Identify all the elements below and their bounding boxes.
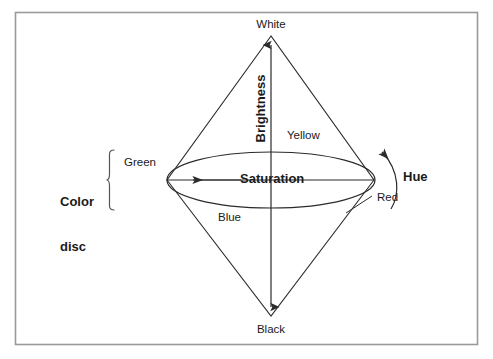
label-saturation: Saturation [240,172,304,187]
label-white: White [256,18,285,31]
label-blue: Blue [218,211,241,224]
label-green: Green [124,156,156,169]
label-yellow: Yellow [287,129,320,142]
label-black: Black [257,323,285,336]
label-color-disc-line2: disc [60,240,94,255]
label-brightness: Brightness [254,60,269,156]
label-color-disc-line1: Color [60,195,94,210]
label-red: Red [377,191,398,204]
figure-root: White Black Brightness Saturation Hue Gr… [0,0,493,359]
label-hue: Hue [403,170,428,185]
label-color-disc: Color disc [60,165,94,285]
